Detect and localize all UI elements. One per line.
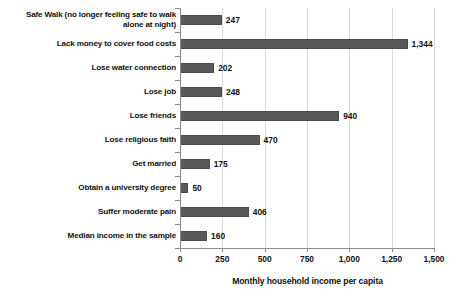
y-axis-tick <box>175 32 180 33</box>
bar <box>180 183 188 193</box>
y-axis-tick <box>175 128 180 129</box>
category-label: Lack money to cover food costs <box>0 39 176 49</box>
bar <box>180 87 222 97</box>
category-label-line: Lose water connection <box>0 63 176 73</box>
y-axis-tick <box>175 104 180 105</box>
category-label-line: Median income in the sample <box>0 231 176 241</box>
category-axis: Safe Walk (no longer feeling safe to wal… <box>0 8 176 248</box>
bar-value-label: 247 <box>226 15 240 25</box>
bar-value-label: 160 <box>211 231 225 241</box>
bar-value-label: 202 <box>218 63 232 73</box>
x-axis-tick <box>392 248 393 252</box>
x-axis-tick <box>265 248 266 252</box>
category-label-line: Lose job <box>0 87 176 97</box>
y-axis-line <box>180 8 181 248</box>
category-label-line: Obtain a university degree <box>0 183 176 193</box>
y-axis-tick <box>175 56 180 57</box>
category-label: Median income in the sample <box>0 231 176 241</box>
x-axis-tick <box>307 248 308 252</box>
plot-area: 2471,34420224894047017550406160 <box>180 8 434 248</box>
category-label: Suffer moderate pain <box>0 207 176 217</box>
y-axis-tick <box>175 248 180 249</box>
bar-value-label: 940 <box>343 111 357 121</box>
x-axis-tick-labels: 02505007501,0001,2501,500 <box>0 254 457 268</box>
bar-chart: Safe Walk (no longer feeling safe to wal… <box>0 0 457 302</box>
bar-value-label: 1,344 <box>412 39 433 49</box>
y-axis-tick <box>175 80 180 81</box>
bar <box>180 207 249 217</box>
x-axis-tick-label: 1,500 <box>424 254 445 264</box>
x-axis-tick-label: 1,000 <box>339 254 360 264</box>
category-label: Lose water connection <box>0 63 176 73</box>
category-label: Lose job <box>0 87 176 97</box>
category-label-line: alone at night) <box>0 20 176 30</box>
bar <box>180 15 222 25</box>
bar-value-label: 50 <box>192 183 201 193</box>
bar-value-label: 470 <box>264 135 278 145</box>
bar <box>180 231 207 241</box>
y-axis-tick <box>175 152 180 153</box>
x-axis-title: Monthly household income per capita <box>180 276 435 286</box>
gridline <box>434 8 435 248</box>
x-axis-tick-label: 0 <box>178 254 183 264</box>
category-label-line: Suffer moderate pain <box>0 207 176 217</box>
y-axis-tick <box>175 224 180 225</box>
y-axis-tick <box>175 8 180 9</box>
x-axis-tick-label: 250 <box>215 254 229 264</box>
category-label-line: Get married <box>0 159 176 169</box>
bar <box>180 39 408 49</box>
category-label: Get married <box>0 159 176 169</box>
bar <box>180 63 214 73</box>
category-label: Lose religious faith <box>0 135 176 145</box>
category-label-line: Lose friends <box>0 111 176 121</box>
category-label: Safe Walk (no longer feeling safe to wal… <box>0 10 176 29</box>
bar <box>180 135 260 145</box>
y-axis-tick <box>175 200 180 201</box>
category-label: Lose friends <box>0 111 176 121</box>
bar-value-label: 406 <box>253 207 267 217</box>
x-axis-tick <box>434 248 435 252</box>
x-axis-tick <box>180 248 181 252</box>
category-label-line: Lose religious faith <box>0 135 176 145</box>
y-axis-tick <box>175 176 180 177</box>
bar <box>180 111 339 121</box>
category-label: Obtain a university degree <box>0 183 176 193</box>
x-axis-tick <box>222 248 223 252</box>
category-label-line: Lack money to cover food costs <box>0 39 176 49</box>
category-label-line: Safe Walk (no longer feeling safe to wal… <box>0 10 176 20</box>
bar <box>180 159 210 169</box>
x-axis-tick-label: 500 <box>258 254 272 264</box>
x-axis-tick-label: 750 <box>300 254 314 264</box>
x-axis-tick-label: 1,250 <box>381 254 402 264</box>
bar-value-label: 175 <box>214 159 228 169</box>
bar-value-label: 248 <box>226 87 240 97</box>
x-axis-tick <box>349 248 350 252</box>
